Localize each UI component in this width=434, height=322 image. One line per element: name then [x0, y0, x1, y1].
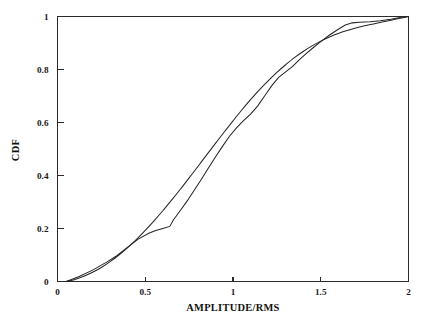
figure-container: 00.511.52 00.20.40.60.81 AMPLITUDE/RMS C…	[0, 0, 434, 322]
x-tick-label: 0	[55, 287, 60, 297]
cdf-plot: 00.511.52 00.20.40.60.81 AMPLITUDE/RMS C…	[0, 0, 434, 322]
y-tick-label: 0.6	[37, 118, 49, 128]
x-axis-title: AMPLITUDE/RMS	[186, 302, 279, 313]
y-tick-label: 0.4	[37, 171, 49, 181]
x-tick-label: 1	[231, 287, 236, 297]
y-axis-title: CDF	[10, 139, 21, 161]
y-tick-label: 1	[44, 12, 49, 22]
y-tick-label: 0	[44, 277, 49, 287]
y-tick-label: 0.8	[37, 65, 49, 75]
x-tick-label: 2	[406, 287, 411, 297]
x-tick-label: 0.5	[140, 287, 152, 297]
x-tick-label: 1.5	[315, 287, 327, 297]
y-tick-label: 0.2	[37, 224, 49, 234]
plot-background	[0, 0, 434, 322]
